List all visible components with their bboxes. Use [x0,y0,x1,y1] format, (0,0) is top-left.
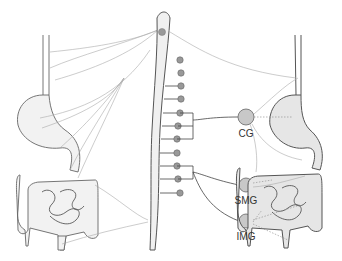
diagram-canvas [0,0,342,261]
left-colon [16,175,98,250]
autonomic-gut-diagram: CG SMG IMG [0,0,342,261]
outflow-dot [177,190,183,196]
spinal-outflow [160,57,239,221]
right-gut [236,35,322,248]
brainstem-nucleus [159,29,166,36]
right-esophagus [295,35,301,95]
cg-label: CG [239,128,254,139]
left-esophagus [43,35,49,95]
left-gut [16,35,98,250]
outflow-dot [177,57,183,63]
img-label: IMG [237,231,256,242]
celiac-ganglion [238,109,254,125]
smg-label: SMG [235,195,258,206]
spinal-cord [150,12,170,250]
cg-connector [177,113,238,139]
outflow-dot [178,83,184,89]
outflow-dot [174,150,180,156]
outflow-dot [178,70,184,76]
smg-connector [177,166,239,185]
left-stomach [17,95,79,172]
outflow-dot [178,96,184,102]
